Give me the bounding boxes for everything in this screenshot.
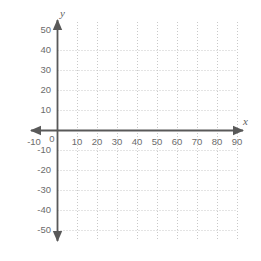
y-tick-label--10: -10	[25, 145, 51, 155]
y-axis-arrow-up	[53, 19, 62, 30]
coordinate-plane-svg	[0, 0, 261, 261]
y-axis-arrow-down	[53, 231, 62, 242]
y-tick-label--20: -20	[25, 165, 51, 175]
y-tick-label--30: -30	[25, 185, 51, 195]
x-tick-label-0: 0	[40, 134, 64, 144]
axis-lines	[31, 20, 243, 241]
y-tick-label-40: 40	[25, 45, 51, 55]
y-tick-label--40: -40	[25, 205, 51, 215]
y-axis-label: y	[60, 8, 65, 19]
y-tick-label-30: 30	[25, 65, 51, 75]
y-tick-label-50: 50	[25, 25, 51, 35]
y-tick-label--50: -50	[25, 225, 51, 235]
x-axis-label: x	[243, 116, 248, 127]
x-tick-label-90: 90	[225, 137, 249, 147]
y-tick-label-20: 20	[25, 85, 51, 95]
y-tick-label-10: 10	[25, 105, 51, 115]
coordinate-plane-graph: x y -100102030405060708090 5040302010-10…	[0, 0, 261, 261]
x-axis-arrow-right	[233, 126, 244, 135]
